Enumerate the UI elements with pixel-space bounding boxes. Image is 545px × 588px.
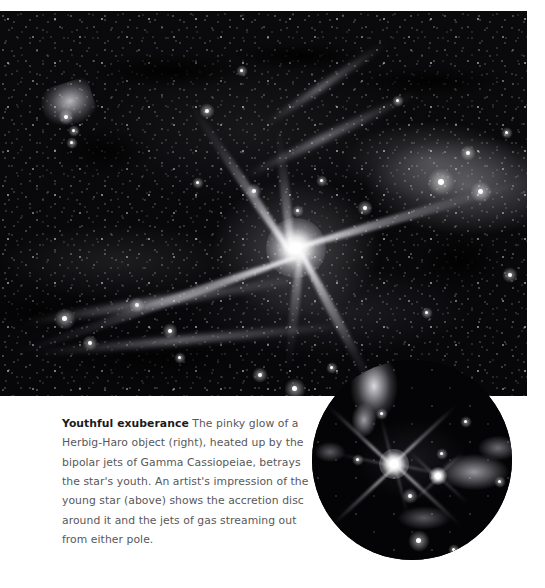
caption-body: The pinky glow of a Herbig-Haro object (… [62, 417, 308, 546]
inset-star [452, 548, 455, 551]
star [178, 356, 181, 359]
star [72, 129, 75, 132]
inset-star [408, 494, 412, 498]
main-astro-photo [0, 11, 527, 396]
inset-star [416, 538, 421, 543]
star [505, 131, 508, 134]
inset-star [498, 480, 501, 483]
star [70, 141, 73, 144]
inset-star [464, 420, 467, 423]
star [168, 329, 172, 333]
star [64, 115, 68, 119]
star [425, 311, 428, 314]
star [258, 373, 262, 377]
figure-caption: Youthful exuberance The pinky glow of a … [62, 414, 310, 550]
caption-lead: Youthful exuberance [62, 417, 189, 430]
central-star-core [266, 218, 326, 278]
star [292, 386, 297, 391]
star [466, 151, 470, 155]
inset-primary-core [379, 449, 409, 479]
star [205, 109, 209, 113]
inset-star [440, 452, 443, 455]
star [438, 179, 444, 185]
star [240, 69, 243, 72]
figure-page: Youthful exuberance The pinky glow of a … [0, 0, 545, 588]
star [196, 181, 199, 184]
inset-companion-core [429, 467, 447, 485]
inset-circle-photo [312, 360, 512, 560]
star [508, 273, 512, 277]
